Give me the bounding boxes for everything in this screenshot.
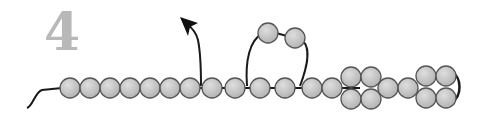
beads-group: [60, 23, 456, 109]
main-chain-bead: [250, 78, 270, 98]
main-chain-bead: [120, 78, 140, 98]
main-chain-bead: [160, 78, 180, 98]
bead-chain-illustration: [0, 0, 485, 122]
needle-path: [188, 25, 201, 86]
main-chain-bead: [140, 78, 160, 98]
end-cluster-bead: [416, 66, 436, 86]
cluster-bead: [341, 89, 361, 109]
end-cluster-bead: [436, 66, 456, 86]
main-chain-bead: [322, 78, 342, 98]
main-chain-bead: [225, 78, 245, 98]
beading-step-diagram: 4: [0, 0, 485, 122]
loop-bead: [258, 23, 278, 43]
end-cluster-bead: [416, 88, 436, 108]
thread-tail: [27, 88, 62, 108]
loop-bead: [285, 28, 305, 48]
main-chain-bead: [80, 78, 100, 98]
main-chain-bead: [100, 78, 120, 98]
main-chain-bead: [180, 78, 200, 98]
mid-bead: [398, 78, 418, 98]
main-chain-bead: [202, 78, 222, 98]
cluster-bead: [361, 67, 381, 87]
end-cluster-bead: [436, 88, 456, 108]
main-chain-bead: [275, 78, 295, 98]
mid-bead: [378, 78, 398, 98]
main-chain-bead: [302, 78, 322, 98]
cluster-bead: [341, 67, 361, 87]
cluster-bead: [361, 89, 381, 109]
main-chain-bead: [60, 78, 80, 98]
